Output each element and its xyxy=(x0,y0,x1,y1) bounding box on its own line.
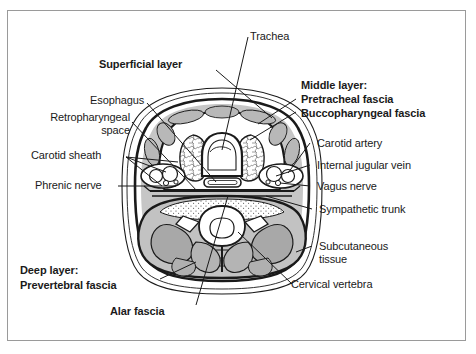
prevertebral-compartment xyxy=(138,196,306,278)
label-deep-layer-heading: Deep layer: xyxy=(20,264,78,277)
label-internal-jugular-vein: Internal jugular vein xyxy=(317,159,411,172)
label-retropharyngeal-space: Retropharyngeal space xyxy=(20,111,130,137)
label-buccopharyngeal-fascia: Buccopharyngeal fascia xyxy=(301,107,425,120)
trachea-lumen xyxy=(202,133,242,176)
label-sympathetic-trunk: Sympathetic trunk xyxy=(319,203,405,216)
label-cervical-vertebra: Cervical vertebra xyxy=(291,278,372,291)
label-carotid-sheath: Carotid sheath xyxy=(31,149,101,162)
label-subcutaneous-tissue: Subcutaneous tissue xyxy=(319,240,388,266)
label-carotid-artery: Carotid artery xyxy=(317,137,382,150)
label-phrenic-nerve: Phrenic nerve xyxy=(35,179,102,192)
label-alar-fascia: Alar fascia xyxy=(110,305,165,318)
label-pretracheal-fascia: Pretracheal fascia xyxy=(301,93,393,106)
carotid-sheath-right xyxy=(141,164,185,188)
label-middle-layer-heading: Middle layer: xyxy=(301,79,367,92)
figure-root: Trachea Superficial layer Esophagus Retr… xyxy=(0,0,476,354)
label-prevertebral-fascia: Prevertebral fascia xyxy=(20,279,117,292)
esophagus-lumen xyxy=(204,178,241,187)
label-vagus-nerve: Vagus nerve xyxy=(317,180,377,193)
label-superficial-layer: Superficial layer xyxy=(99,58,182,71)
label-esophagus: Esophagus xyxy=(90,94,144,107)
label-trachea: Trachea xyxy=(250,30,289,43)
neck-cross-section-illustration xyxy=(0,0,476,354)
